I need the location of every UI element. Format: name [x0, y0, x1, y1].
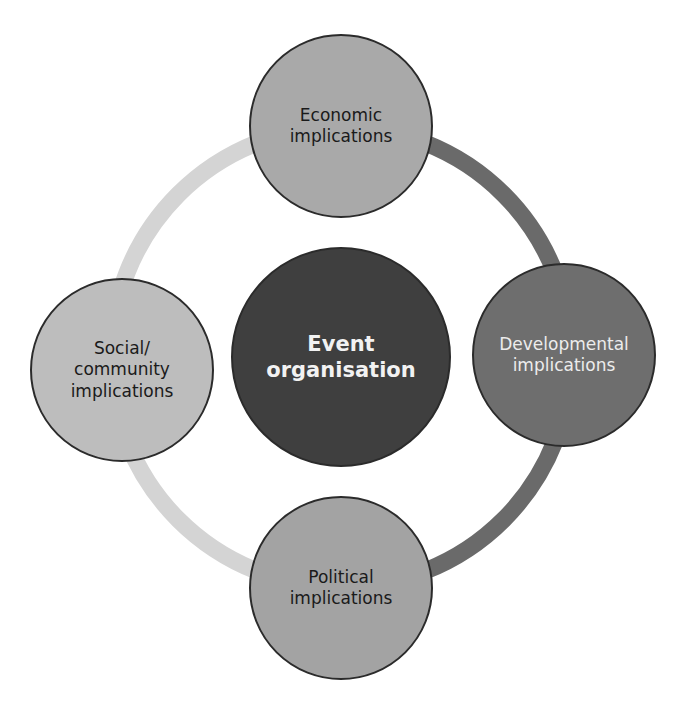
center-label-line: organisation: [266, 357, 415, 383]
node-label-line: Developmental: [499, 334, 629, 355]
node-label-line: Social/: [71, 338, 174, 359]
node-developmental-implications: Developmental implications: [472, 263, 656, 447]
node-label-line: community: [71, 359, 174, 380]
diagram-canvas: Economic implications Social/ community …: [0, 0, 683, 706]
node-label-line: implications: [499, 355, 629, 376]
node-social-community-implications: Social/ community implications: [30, 278, 214, 462]
node-label-line: Political: [290, 567, 393, 588]
node-political-implications: Political implications: [249, 496, 433, 680]
center-label-line: Event: [266, 331, 415, 357]
node-label-line: implications: [71, 381, 174, 402]
node-label-line: implications: [290, 588, 393, 609]
node-economic-implications: Economic implications: [249, 34, 433, 218]
node-label-line: implications: [290, 126, 393, 147]
node-event-organisation: Event organisation: [231, 247, 451, 467]
node-label-line: Economic: [290, 105, 393, 126]
